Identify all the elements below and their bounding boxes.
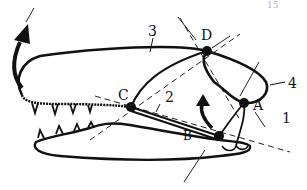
joint-label-B: B xyxy=(183,130,192,142)
joint-label-A: A xyxy=(253,98,263,112)
joint-label-C: C xyxy=(118,88,129,102)
joint-C xyxy=(126,102,136,112)
snout-arrowhead-icon xyxy=(14,24,30,44)
joint-A xyxy=(239,98,249,108)
page-number-fragment: 15 xyxy=(267,0,278,10)
skull-diagram: 15 D C A B 1 2 3 4 xyxy=(0,0,307,190)
snout-rotation-arrow-icon xyxy=(14,42,22,88)
joint-label-D: D xyxy=(201,28,212,42)
joint-D xyxy=(202,46,212,56)
jaw-articular xyxy=(222,146,248,151)
quadrate-rotation-arrow-icon xyxy=(201,104,212,128)
upper-skull-outline xyxy=(19,47,267,103)
link-label-4: 4 xyxy=(288,76,297,90)
link-label-3: 3 xyxy=(148,24,157,38)
quadrate-arrowhead-icon xyxy=(196,94,210,106)
link-label-2: 2 xyxy=(165,90,174,104)
joint-B xyxy=(214,131,224,141)
lower-jaw-outline xyxy=(35,124,250,160)
link-label-1: 1 xyxy=(282,111,291,125)
